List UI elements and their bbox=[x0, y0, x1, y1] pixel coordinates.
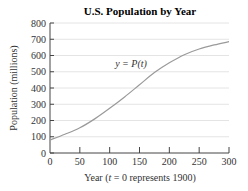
population-curve bbox=[50, 42, 229, 140]
y-tick-label: 600 bbox=[31, 50, 46, 61]
x-tick-label: 200 bbox=[162, 156, 177, 167]
x-tick-label: 150 bbox=[132, 156, 147, 167]
y-tick-label: 300 bbox=[31, 99, 46, 110]
x-tick-label: 250 bbox=[192, 156, 207, 167]
x-tick-label: 100 bbox=[102, 156, 117, 167]
x-tick-label: 300 bbox=[222, 156, 237, 167]
gridlines bbox=[50, 23, 229, 137]
population-chart: U.S. Population by Year 0100200300400500… bbox=[0, 0, 248, 191]
y-tick-label: 800 bbox=[31, 18, 46, 29]
x-tick-label: 50 bbox=[75, 156, 85, 167]
x-axis-label: Year (t = 0 represents 1900) bbox=[84, 172, 196, 184]
y-tick-label: 100 bbox=[31, 131, 46, 142]
y-axis-label: Population (millions) bbox=[8, 45, 20, 130]
curve-annotation: y = P(t) bbox=[114, 58, 147, 70]
y-tick-label: 400 bbox=[31, 83, 46, 94]
y-axis-ticks: 0100200300400500600700800 bbox=[31, 18, 54, 159]
x-axis-ticks: 050100150200250300 bbox=[48, 147, 237, 167]
y-tick-label: 0 bbox=[41, 148, 46, 159]
x-tick-label: 0 bbox=[48, 156, 53, 167]
y-tick-label: 500 bbox=[31, 66, 46, 77]
y-tick-label: 700 bbox=[31, 34, 46, 45]
y-tick-label: 200 bbox=[31, 115, 46, 126]
chart-title: U.S. Population by Year bbox=[84, 5, 196, 17]
